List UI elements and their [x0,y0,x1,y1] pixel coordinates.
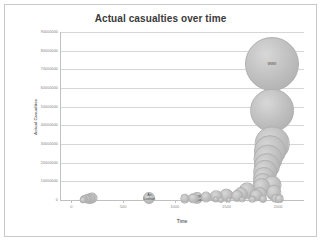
bubble-data-point [200,192,211,203]
y-axis-tick-label: 30000000 [41,142,58,146]
x-axis-title: Time [60,219,304,224]
x-axis-tick-label: 500 [120,204,127,209]
y-axis-tick-label: 80000000 [41,49,58,53]
bubble-data-point [79,196,86,203]
bubble-data-point [249,196,256,203]
chart-title: Actual casualties over time [5,13,316,24]
y-axis-tick-label: 90000000 [41,30,58,34]
gridline [61,32,304,33]
bubble-data-point [239,196,246,203]
bubble-data-point [188,193,199,204]
y-axis-tick-label: 0 [56,198,58,202]
x-axis-tick-label: 0 [70,204,72,209]
bubble-data-point [226,197,232,203]
plot-area: 0100000002000000030000000400000005000000… [60,32,304,201]
y-axis-tick-label: 50000000 [41,105,58,109]
x-axis-tick-label: 1000 [170,204,179,209]
y-axis-tick-label: 20000000 [41,161,58,165]
y-axis-tick-label: 40000000 [41,123,58,127]
bubble-data-point [245,37,299,91]
y-axis-tick-label: 70000000 [41,67,58,71]
y-axis-tick-label: 10000000 [41,179,58,183]
bubble-data-point [259,195,267,203]
x-axis-tick [175,200,176,203]
bubble-data-point [143,192,155,204]
y-axis-tick-label: 60000000 [41,86,58,90]
y-axis-title: Actual Casualties [33,99,38,135]
x-axis-tick-label: 1500 [222,204,231,209]
bubble-data-point [275,195,283,203]
chart-container: Actual casualties over time Actual Casua… [4,4,317,237]
x-axis-tick [123,200,124,203]
x-axis-tick-label: 2000 [274,204,283,209]
bubble-data-point [218,197,224,203]
x-axis-tick [71,200,72,203]
